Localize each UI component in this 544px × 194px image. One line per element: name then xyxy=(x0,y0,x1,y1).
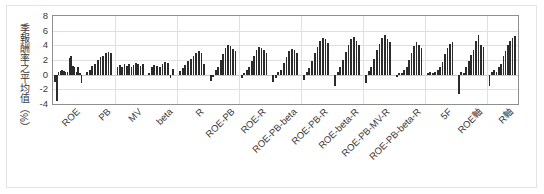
bar xyxy=(387,39,389,75)
bar xyxy=(514,36,516,75)
horizontal-gridline xyxy=(53,89,518,90)
bar xyxy=(314,53,316,74)
bar xyxy=(325,39,327,74)
bar xyxy=(277,72,279,74)
bar xyxy=(86,72,88,74)
bar xyxy=(376,50,378,74)
bar xyxy=(452,42,454,75)
bar xyxy=(483,47,485,75)
bar xyxy=(283,63,285,75)
bar xyxy=(148,73,150,74)
x-tick-label: ROE軸 xyxy=(455,106,484,135)
bar xyxy=(97,60,99,75)
bar xyxy=(105,53,107,75)
bar xyxy=(212,75,214,77)
bar xyxy=(384,35,386,75)
bar xyxy=(317,47,319,75)
y-tick-label: -4 xyxy=(28,99,48,108)
y-axis-tick-labels: 86420-2-4 xyxy=(28,10,48,105)
bar xyxy=(201,53,203,75)
bar xyxy=(193,56,195,75)
bar xyxy=(153,65,155,75)
x-tick-label: MV xyxy=(125,106,143,124)
bar xyxy=(190,59,192,75)
vertical-gridline xyxy=(487,16,488,104)
x-tick-label: R xyxy=(193,106,206,119)
bar xyxy=(373,59,375,75)
bar xyxy=(167,63,169,75)
bar xyxy=(184,65,186,75)
bar xyxy=(172,69,174,75)
x-tick-label: 5F xyxy=(438,106,454,122)
bar xyxy=(489,75,491,86)
bar xyxy=(339,67,341,74)
bar xyxy=(350,39,352,74)
bar xyxy=(162,64,164,74)
bar xyxy=(345,52,347,75)
plot-area xyxy=(52,15,519,105)
x-tick-label: R軸 xyxy=(496,106,516,126)
bar xyxy=(342,60,344,75)
bar xyxy=(170,75,172,78)
horizontal-gridline xyxy=(53,104,518,105)
bar xyxy=(379,44,381,75)
bar xyxy=(179,71,181,75)
bar xyxy=(91,66,93,75)
bar xyxy=(280,70,282,75)
bar xyxy=(164,62,166,74)
chart-figure: 季報酬率之平均值（%） 86420-2-4 ROEPBMVbetaRROE-PB… xyxy=(0,0,544,194)
bar xyxy=(151,67,153,75)
bar xyxy=(110,53,112,74)
bar xyxy=(337,72,339,75)
vertical-gridline xyxy=(115,16,116,104)
y-axis-title: 季報酬率之平均值（%） xyxy=(12,13,29,141)
bar xyxy=(288,51,290,74)
bar xyxy=(319,41,321,75)
bar xyxy=(368,71,370,75)
bar xyxy=(142,64,144,75)
y-tick-label: 8 xyxy=(28,11,48,20)
bar xyxy=(303,75,305,80)
vertical-gridline xyxy=(363,16,364,104)
bar xyxy=(396,75,398,77)
vertical-gridline xyxy=(177,16,178,104)
bar xyxy=(241,75,243,79)
bar xyxy=(81,75,83,84)
bar xyxy=(334,75,336,87)
bar xyxy=(272,75,274,82)
x-tick-label: ROE-PB xyxy=(203,106,237,140)
bar xyxy=(311,61,313,74)
y-tick-label: 4 xyxy=(28,40,48,49)
bar xyxy=(421,48,423,74)
bar xyxy=(348,45,350,74)
bar xyxy=(187,61,189,74)
bar xyxy=(458,75,460,94)
bar xyxy=(198,51,200,74)
bar xyxy=(275,75,277,79)
bar xyxy=(94,64,96,75)
x-tick-label: PB xyxy=(96,106,113,123)
bar xyxy=(182,68,184,75)
vertical-gridline xyxy=(239,16,240,104)
bar xyxy=(195,53,197,74)
bar xyxy=(356,41,358,75)
bar xyxy=(159,67,161,74)
bar xyxy=(327,43,329,75)
bar xyxy=(370,67,372,75)
bar xyxy=(294,50,296,74)
y-tick-label: 6 xyxy=(28,25,48,34)
bar xyxy=(102,56,104,75)
x-tick-label: ROE-R xyxy=(238,106,267,135)
bar xyxy=(286,57,288,75)
horizontal-gridline xyxy=(53,31,518,32)
bar xyxy=(296,53,298,74)
y-tick-label: -2 xyxy=(28,84,48,93)
bar xyxy=(56,75,58,101)
y-tick-label: 2 xyxy=(28,55,48,64)
zero-line xyxy=(53,75,518,76)
bar xyxy=(389,42,391,74)
bar xyxy=(89,70,91,74)
bar xyxy=(100,57,102,75)
bar xyxy=(353,37,355,74)
bar xyxy=(306,72,308,74)
